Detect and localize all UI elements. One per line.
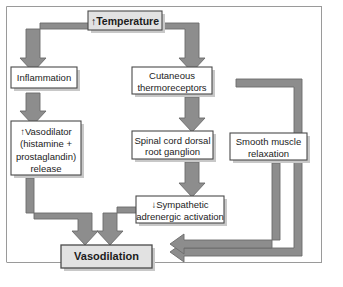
node-thermoreceptors-label-line2: thermoreceptors <box>137 82 206 93</box>
node-vasodilator-label-line3: prostaglandin) <box>16 151 76 162</box>
node-ganglion-label-line2: root ganglion <box>145 146 200 157</box>
node-sympathetic[interactable]: ↓Sympathetic adrenergic activation <box>136 196 224 223</box>
node-vasodilation[interactable]: Vasodilation <box>61 245 152 268</box>
node-ganglion[interactable]: Spinal cord dorsal root ganglion <box>132 131 213 159</box>
node-vasodilation-label: Vasodilation <box>74 250 139 262</box>
node-inflammation-label: Inflammation <box>17 72 71 83</box>
node-ganglion-label-line1: Spinal cord dorsal <box>134 135 210 146</box>
node-smoothmuscle-label-line1: Smooth muscle <box>236 136 301 147</box>
edge-vasodilator-to-vasodilation <box>26 178 98 245</box>
node-inflammation[interactable]: Inflammation <box>11 67 77 88</box>
edge-sympathetic-to-vasodilation <box>97 207 141 245</box>
node-thermoreceptors-label-line1: Cutaneous <box>149 70 195 81</box>
node-vasodilator-label-line4: release <box>30 163 61 174</box>
node-smoothmuscle-label-line2: relaxation <box>248 148 289 159</box>
node-vasodilator[interactable]: ↑Vasodilator (histamine + prostaglandin)… <box>11 121 81 175</box>
flowchart-canvas: ↑Temperature Inflammation ↑Vasodilator (… <box>0 0 343 287</box>
edge-thermoreceptors-to-ganglion <box>179 97 205 132</box>
edge-temperature-to-thermoreceptors <box>163 23 205 72</box>
edge-ganglion-to-sympathetic <box>179 162 205 197</box>
node-vasodilator-label-line2: (histamine + <box>20 138 72 149</box>
flowchart-figure: ↑Temperature Inflammation ↑Vasodilator (… <box>0 0 343 287</box>
edge-temperature-to-inflammation <box>20 23 90 72</box>
node-temperature[interactable]: ↑Temperature <box>88 11 162 30</box>
node-thermoreceptors[interactable]: Cutaneous thermoreceptors <box>132 67 212 94</box>
node-sympathetic-label-line1: ↓Sympathetic <box>151 199 208 210</box>
node-smoothmuscle[interactable]: Smooth muscle relaxation <box>230 133 307 160</box>
node-vasodilator-label-line1: ↑Vasodilator <box>20 126 72 137</box>
edge-inflammation-to-vasodilator <box>20 93 46 125</box>
node-sympathetic-label-line2: adrenergic activation <box>136 211 224 222</box>
node-temperature-label: ↑Temperature <box>91 15 159 27</box>
